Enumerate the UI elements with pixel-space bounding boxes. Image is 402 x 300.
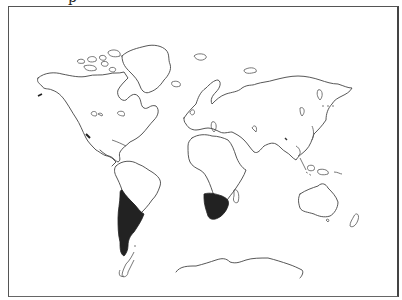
antarctica bbox=[119, 252, 303, 278]
southeast-asia-islands bbox=[300, 158, 342, 176]
australia bbox=[299, 184, 359, 227]
africa bbox=[188, 122, 246, 220]
greenland bbox=[122, 45, 180, 93]
north-america bbox=[37, 50, 158, 166]
eurasia bbox=[184, 54, 352, 160]
south-america bbox=[115, 161, 161, 256]
world-map bbox=[0, 0, 402, 300]
